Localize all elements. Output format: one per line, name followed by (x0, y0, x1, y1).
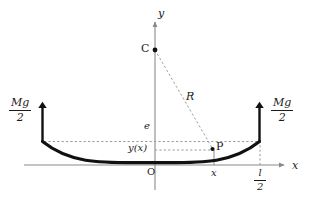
radius-label: R (186, 91, 194, 102)
point-p-marker (210, 147, 214, 151)
beam-deflection-curve (43, 142, 260, 163)
origin-label: O (147, 167, 155, 177)
sag-level-label: e (144, 121, 150, 131)
radius-dashed-line (155, 50, 213, 149)
right-force-label: Mg 2 (271, 97, 293, 123)
abscissa-label: x (211, 168, 217, 178)
point-p-label: P (216, 141, 223, 152)
right-force-denominator: 2 (271, 111, 293, 124)
point-c-label: C (141, 43, 149, 54)
half-span-numerator: l (254, 168, 266, 181)
left-force-numerator: Mg (9, 97, 31, 111)
right-force-numerator: Mg (271, 97, 293, 111)
x-axis-label: x (292, 160, 298, 171)
y-axis-label: y (158, 8, 164, 19)
half-span-denominator: 2 (254, 181, 266, 193)
point-c-marker (153, 48, 158, 53)
half-span-label: l 2 (254, 168, 266, 192)
left-force-label: Mg 2 (9, 97, 31, 123)
diagram-svg (0, 0, 314, 214)
figure-canvas: Mg 2 Mg 2 y x O C P R e y(x) x l 2 (0, 0, 314, 214)
deflection-label: y(x) (128, 143, 147, 153)
left-force-denominator: 2 (9, 111, 31, 124)
